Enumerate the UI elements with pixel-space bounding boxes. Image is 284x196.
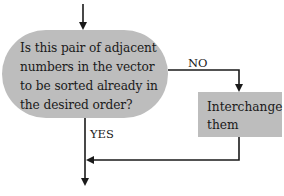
process-node: Interchange them [198,92,282,137]
decision-node: Is this pair of adjacent numbers in the … [2,30,168,118]
decision-text-line: numbers in the vector [20,58,158,77]
yes-label: YES [90,127,114,141]
process-text-line: them [207,116,282,134]
no-branch-arrow [168,70,239,88]
no-label: NO [188,56,208,70]
decision-text-line: to be sorted already in [20,77,158,96]
decision-text-line: the desired order? [20,96,158,115]
process-text-line: Interchange [207,98,282,116]
decision-text-line: Is this pair of adjacent [20,39,158,58]
